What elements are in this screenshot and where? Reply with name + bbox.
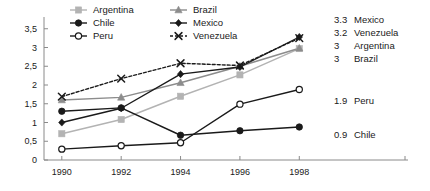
y-tick-label: 3,5 <box>24 24 37 34</box>
end-label-value: 1.9 <box>334 95 347 106</box>
series-marker-venezuela <box>118 75 125 82</box>
marker-square <box>177 93 183 99</box>
series-line-argentina <box>62 49 299 134</box>
x-tick-label: 1990 <box>52 167 72 177</box>
marker-square <box>59 131 65 137</box>
series-marker-mexico <box>177 71 183 78</box>
marker-square <box>237 72 243 78</box>
x-tick-label: 1998 <box>289 167 309 177</box>
marker-circle-open <box>296 86 302 92</box>
end-label-name: Brazil <box>354 53 378 64</box>
series-marker-chile <box>237 128 243 134</box>
series-marker-chile <box>177 132 183 138</box>
marker-circle-filled <box>59 108 65 114</box>
marker-circle-open <box>118 143 124 149</box>
end-label-peru: 1.9Peru <box>334 95 374 106</box>
y-tick-label: 1,5 <box>24 99 37 109</box>
end-label-brazil: 3Brazil <box>334 53 378 64</box>
legend-label-text: Brazil <box>193 4 217 15</box>
legend-label-text: Chile <box>93 17 115 28</box>
marker-diamond <box>177 71 183 78</box>
legend-label-text: Mexico <box>193 17 223 28</box>
legend-item-venezuela: Venezuela <box>170 30 238 41</box>
marker-diamond <box>59 119 65 126</box>
series-marker-peru <box>177 140 183 146</box>
end-label-name: Venezuela <box>354 27 399 38</box>
legend-item-chile: Chile <box>70 17 115 28</box>
legend-swatch-marker <box>175 19 181 26</box>
end-label-value: 0.9 <box>334 129 347 140</box>
y-tick-label: 0 <box>32 155 37 165</box>
legend-swatch-marker <box>75 7 81 13</box>
marker-circle-filled <box>75 20 81 26</box>
end-label-value: 3 <box>334 40 339 51</box>
series-marker-argentina <box>177 93 183 99</box>
y-tick-label: 1 <box>32 118 37 128</box>
series-marker-argentina <box>118 116 124 122</box>
end-label-chile: 0.9Chile <box>334 129 376 140</box>
marker-square <box>118 116 124 122</box>
y-axis-tick-labels: 00,511,522,533,5 <box>24 24 37 165</box>
marker-circle-filled <box>237 128 243 134</box>
legend-swatch-marker <box>75 33 81 39</box>
y-tick-label: 2,5 <box>24 61 37 71</box>
marker-circle-open <box>237 101 243 107</box>
series-line-venezuela <box>62 38 299 97</box>
x-tick-label: 1996 <box>230 167 250 177</box>
marker-diamond <box>175 19 181 26</box>
marker-circle-open <box>59 146 65 152</box>
x-tick-label: 1992 <box>111 167 131 177</box>
end-label-venezuela: 3.2Venezuela <box>334 27 399 38</box>
legend-item-argentina: Argentina <box>70 4 134 15</box>
y-tick-label: 2 <box>32 80 37 90</box>
y-tick-label: 0,5 <box>24 136 37 146</box>
legend-label-text: Venezuela <box>193 30 238 41</box>
end-value-labels: 3.3Mexico3.2Venezuela3Argentina3Brazil1.… <box>334 14 399 140</box>
marker-circle-open <box>177 140 183 146</box>
chart-legend: ArgentinaBrazilChileMexicoPeruVenezuela <box>70 4 238 41</box>
y-tick-label: 3 <box>32 43 37 53</box>
series-marker-peru <box>59 146 65 152</box>
series-marker-chile <box>59 108 65 114</box>
plot-area: 00,511,522,533,5 19901992199419961998 <box>24 17 408 177</box>
end-label-name: Mexico <box>354 14 384 25</box>
legend-item-mexico: Mexico <box>170 17 223 28</box>
legend-label-text: Peru <box>93 30 113 41</box>
series-marker-argentina <box>59 131 65 137</box>
legend-item-peru: Peru <box>70 30 113 41</box>
end-label-name: Chile <box>354 129 376 140</box>
series-markers <box>58 33 303 152</box>
marker-square <box>75 7 81 13</box>
chart-canvas: 00,511,522,533,5 19901992199419961998 Ar… <box>0 0 430 191</box>
series-line-chile <box>62 108 299 135</box>
series-marker-chile <box>296 124 302 130</box>
x-axis-tick-labels: 19901992199419961998 <box>52 167 310 177</box>
end-label-name: Peru <box>354 95 374 106</box>
end-label-value: 3.2 <box>334 27 347 38</box>
end-label-value: 3 <box>334 53 339 64</box>
end-label-value: 3.3 <box>334 14 347 25</box>
x-tick-label: 1994 <box>171 167 191 177</box>
legend-swatch-marker <box>75 20 81 26</box>
marker-circle-open <box>75 33 81 39</box>
marker-circle-filled <box>177 132 183 138</box>
end-label-name: Argentina <box>354 40 395 51</box>
end-label-mexico: 3.3Mexico <box>334 14 384 25</box>
end-label-argentina: 3Argentina <box>334 40 395 51</box>
series-marker-peru <box>118 143 124 149</box>
legend-label-text: Argentina <box>93 4 134 15</box>
legend-item-brazil: Brazil <box>170 4 217 15</box>
line-chart-figure: 00,511,522,533,5 19901992199419961998 Ar… <box>0 0 430 191</box>
series-marker-peru <box>296 86 302 92</box>
series-marker-mexico <box>59 119 65 126</box>
series-marker-peru <box>237 101 243 107</box>
series-marker-argentina <box>237 72 243 78</box>
marker-circle-filled <box>296 124 302 130</box>
